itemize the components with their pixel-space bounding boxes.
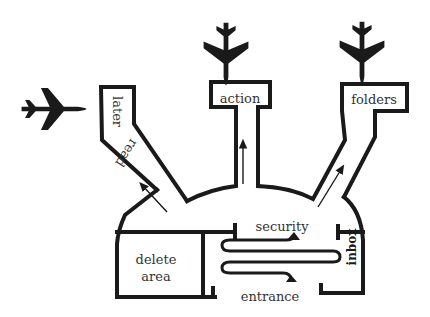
airport-email-diagram: action folders later read security delet… [0,0,430,317]
area-label-entrance: entrance [241,289,300,304]
airplane-icon [22,88,87,130]
gate-label-action: action [220,91,261,106]
airplane-icon [204,23,249,86]
area-label-delete: delete [136,252,177,267]
area-label-security: security [256,219,310,234]
area-label-inbox: inbox [345,228,359,266]
area-label-area: area [141,269,171,284]
security-queue-line [222,232,340,282]
airplane-icon [340,22,385,85]
gate-label-folders: folders [351,92,397,107]
gate-label-later: later [110,96,125,128]
